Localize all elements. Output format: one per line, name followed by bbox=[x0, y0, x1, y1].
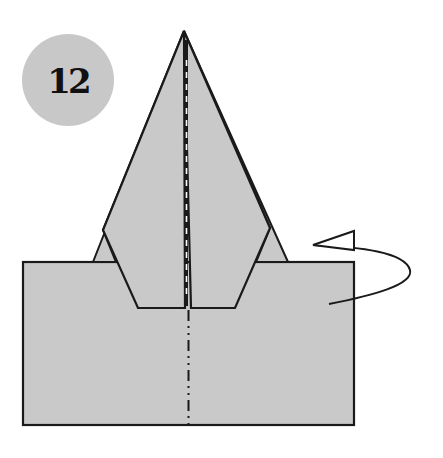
arrowhead-icon bbox=[313, 231, 354, 250]
step-number-badge: 12 bbox=[22, 34, 114, 126]
step-number: 12 bbox=[47, 61, 88, 101]
